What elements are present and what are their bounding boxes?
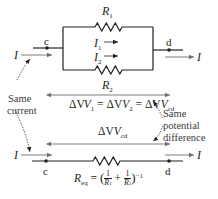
node-c-label-bottom: c (43, 166, 48, 177)
same-current-note: Same current (7, 93, 37, 117)
current-out-label-top: I (197, 51, 201, 63)
parallel-circuit (33, 23, 183, 74)
req-equals: = (91, 172, 98, 184)
r2-label: R2 (102, 79, 113, 91)
same-current-line1: Same (7, 93, 37, 105)
req-exponent: −1 (136, 172, 143, 180)
dv-cd-label-delta: ΔV (98, 125, 114, 137)
req-subscript: eq (81, 179, 88, 187)
same-pd-pointer-bottom (153, 126, 163, 141)
dv-cd-label: ΔVVcd (98, 126, 127, 138)
dv-2-delta: ΔV (106, 98, 122, 110)
node-c-label-top: c (44, 36, 49, 47)
i1-label: I1 (94, 37, 102, 49)
req-plus: + (115, 172, 122, 184)
same-current-pointer-top (17, 59, 30, 80)
dv-cd-delta: ΔV (145, 98, 161, 110)
resistor-r1-branch (63, 23, 153, 31)
same-potential-difference-note: Same potential difference (163, 108, 205, 144)
same-pd-line2: potential (163, 120, 205, 132)
same-pd-line3: difference (163, 132, 205, 144)
r1-label: R1 (102, 5, 113, 17)
voltage-equality-equation: ΔVV1 = ΔVV2 = ΔVVcd (69, 99, 174, 111)
current-out-label-bottom: I (197, 149, 201, 161)
same-current-line2: current (7, 105, 37, 117)
node-d-label-top: d (166, 37, 172, 48)
fraction-1-r-sub: 1 (109, 181, 112, 186)
i2-label: I2 (94, 51, 102, 63)
current-in-label-bottom: I (14, 149, 18, 161)
dv-cd-label-sub: cd (121, 132, 128, 140)
node-d-dot (167, 48, 171, 52)
same-pd-line1: Same (163, 108, 205, 120)
node-d-dot-bottom (167, 159, 171, 163)
req-symbol: R (74, 172, 81, 184)
req-formula: Req = (1R1 + 1R2)−1 (74, 170, 143, 188)
req-resistor-wire (32, 157, 183, 165)
dv-2-sub: 2 (129, 105, 133, 113)
node-c-dot-bottom (44, 159, 48, 163)
resistor-r2-branch (63, 66, 153, 74)
r2-subscript: 2 (109, 86, 113, 94)
dv-1-delta: ΔV (69, 98, 85, 110)
equals-1: = (97, 98, 104, 110)
fraction-1-over-r1: 1R1 (104, 170, 111, 188)
r1-subscript: 1 (109, 12, 113, 20)
equals-2: = (136, 98, 143, 110)
current-in-label-top: I (14, 49, 18, 61)
i2-subscript: 2 (98, 58, 102, 66)
dv-1-sub: 1 (91, 105, 95, 113)
node-d-label-bottom: d (165, 166, 171, 177)
